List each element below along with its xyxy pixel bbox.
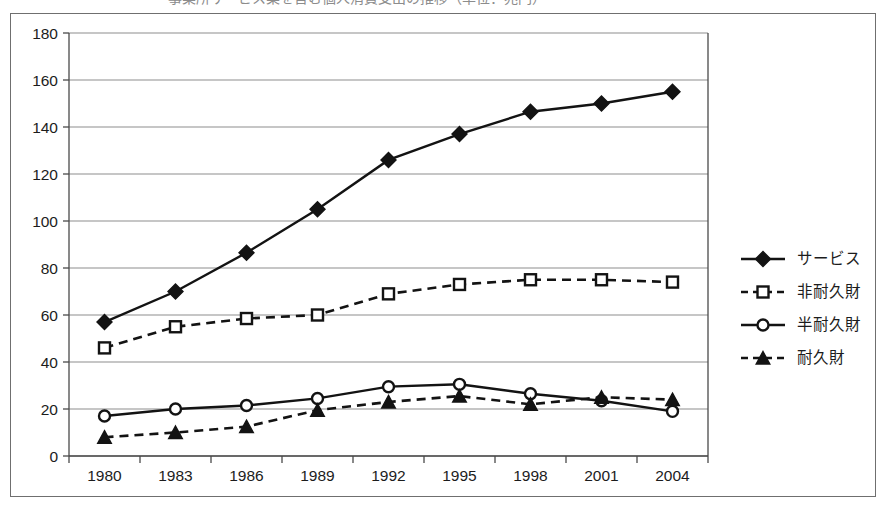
x-axis-tick-label: 1989	[300, 467, 334, 484]
legend-label: 耐久財	[797, 349, 845, 366]
cut-off-title-sliver: 事業所サービス業を含む個人消費支出の推移（単位：兆円）	[0, 0, 888, 11]
y-axis-tick-label: 120	[32, 166, 58, 183]
data-point-marker	[758, 287, 769, 298]
data-point-marker	[241, 313, 252, 324]
data-point-marker	[170, 321, 181, 332]
data-point-marker	[666, 393, 680, 406]
data-point-marker	[756, 252, 771, 267]
x-axis-tick-label: 1986	[229, 467, 263, 484]
data-point-marker	[523, 104, 538, 119]
y-axis-tick-label: 80	[41, 260, 59, 277]
data-point-marker	[758, 320, 769, 331]
y-axis-tick-label: 160	[32, 72, 58, 89]
data-point-marker	[239, 245, 254, 260]
data-point-marker	[667, 277, 678, 288]
y-axis-tick-label: 0	[49, 448, 58, 465]
data-point-marker	[383, 288, 394, 299]
x-axis-tick-label: 1992	[371, 467, 405, 484]
data-point-marker	[312, 310, 323, 321]
x-axis-tick-label: 2004	[655, 467, 690, 484]
cut-off-title-text: 事業所サービス業を含む個人消費支出の推移（単位：兆円）	[168, 0, 546, 7]
data-point-marker	[596, 274, 607, 285]
line-chart: 020406080100120140160180 198019831986198…	[11, 14, 875, 496]
data-point-marker	[665, 84, 680, 99]
data-point-marker	[168, 284, 183, 299]
chart-frame: 020406080100120140160180 198019831986198…	[10, 13, 876, 497]
data-point-marker	[454, 279, 465, 290]
data-point-marker	[667, 406, 678, 417]
y-axis-tick-label: 100	[32, 213, 58, 230]
y-axis-tick-label: 20	[41, 401, 59, 418]
y-axis-tick-label: 60	[41, 307, 59, 324]
data-point-marker	[170, 404, 181, 415]
legend-item-3[interactable]: 半耐久財	[741, 316, 861, 333]
data-series-group	[97, 84, 680, 443]
data-point-marker	[99, 342, 110, 353]
data-point-marker	[525, 274, 536, 285]
y-axis-tick-label: 40	[41, 354, 59, 371]
data-point-marker	[381, 152, 396, 167]
data-point-marker	[594, 96, 609, 111]
legend-label: 非耐久財	[797, 283, 861, 300]
legend-label: 半耐久財	[797, 316, 861, 333]
y-axis-tick-label: 140	[32, 119, 58, 136]
data-point-marker	[452, 127, 467, 142]
legend-item-4[interactable]: 耐久財	[741, 349, 845, 366]
series-triangle	[98, 390, 680, 444]
x-axis-tick-label: 1995	[442, 467, 476, 484]
x-axis-group: 198019831986198919921995199820012004	[69, 456, 708, 484]
data-point-marker	[241, 400, 252, 411]
data-point-marker	[311, 404, 325, 417]
legend-item-1[interactable]: サービス	[741, 250, 861, 267]
chart-legend: サービス非耐久財半耐久財耐久財	[741, 250, 861, 366]
legend-label: サービス	[797, 250, 861, 267]
x-axis-tick-label: 1998	[513, 467, 547, 484]
data-point-marker	[97, 315, 112, 330]
data-point-marker	[383, 381, 394, 392]
data-point-marker	[99, 411, 110, 422]
x-axis-tick-label: 2001	[584, 467, 618, 484]
y-axis-tick-label: 180	[32, 25, 58, 42]
data-point-marker	[310, 202, 325, 217]
x-axis-tick-label: 1983	[158, 467, 192, 484]
x-axis-tick-label: 1980	[87, 467, 122, 484]
legend-item-2[interactable]: 非耐久財	[741, 283, 861, 300]
